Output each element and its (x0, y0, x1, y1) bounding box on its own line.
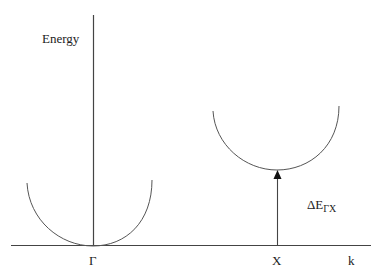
conduction-band-x (213, 106, 339, 170)
energy-axis-label: Energy (42, 32, 79, 45)
valence-band-gamma (27, 180, 152, 246)
k-axis-label: k (348, 254, 355, 267)
gap-label: ΔEΓX (307, 198, 336, 214)
gap-label-main: ΔE (307, 197, 323, 212)
gamma-point-label: Γ (89, 254, 97, 267)
gap-label-sub: ΓX (323, 203, 336, 214)
gap-arrow-head (274, 170, 282, 179)
x-point-label: X (272, 254, 281, 267)
